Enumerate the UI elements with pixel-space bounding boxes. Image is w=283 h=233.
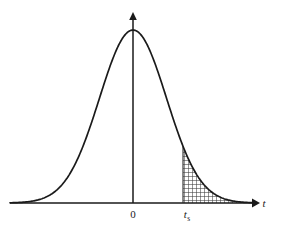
y-axis <box>129 12 137 203</box>
normal-distribution-figure: 0 ts t <box>0 0 283 233</box>
origin-label: 0 <box>130 208 136 220</box>
threshold-subscript: s <box>187 214 190 223</box>
y-axis-arrowhead <box>129 12 137 20</box>
shaded-tail-region <box>183 146 241 203</box>
figure-canvas: 0 ts t <box>0 0 283 233</box>
threshold-label: ts <box>184 208 191 223</box>
x-axis-name-label: t <box>262 197 266 209</box>
